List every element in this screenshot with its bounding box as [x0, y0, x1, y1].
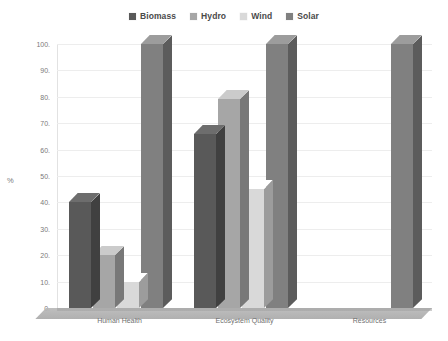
y-tick-10: 10. — [20, 278, 50, 285]
legend-item-biomass[interactable]: Biomass — [129, 11, 176, 21]
y-tick-40: 40. — [20, 199, 50, 206]
bar-body — [391, 44, 413, 308]
legend-item-hydro[interactable]: Hydro — [190, 11, 226, 21]
legend-label-hydro: Hydro — [201, 11, 226, 21]
chart-legend: BiomassHydroWindSolar — [0, 11, 448, 21]
bar-front-face — [141, 44, 163, 308]
legend-swatch-biomass — [129, 13, 136, 20]
y-tick-100: 100. — [20, 41, 50, 48]
bar-front-face — [69, 202, 91, 308]
x-axis-label-ecosystem-quality: Ecosystem Quality — [216, 317, 274, 324]
legend-swatch-wind — [240, 13, 247, 20]
legend-item-wind[interactable]: Wind — [240, 11, 272, 21]
legend-swatch-hydro — [190, 13, 197, 20]
y-tick-50: 50. — [20, 173, 50, 180]
bar-side-face — [264, 181, 273, 308]
bar-side-face — [91, 194, 100, 308]
legend-swatch-solar — [286, 13, 293, 20]
x-axis-label-human-health: Human Health — [97, 317, 142, 324]
legend-label-wind: Wind — [251, 11, 272, 21]
bar-body — [194, 134, 216, 308]
y-axis-title: % — [7, 176, 14, 185]
legend-item-solar[interactable]: Solar — [286, 11, 319, 21]
bar-front-face — [391, 44, 413, 308]
bar-side-face — [216, 125, 225, 308]
y-tick-80: 80. — [20, 93, 50, 100]
y-tick-90: 90. — [20, 67, 50, 74]
y-tick-20: 20. — [20, 252, 50, 259]
bar-side-face — [115, 247, 124, 308]
bar-side-face — [288, 35, 297, 308]
bar-body — [141, 44, 163, 308]
y-axis-tick-labels: 0.10.20.30.40.50.60.70.80.90.100. — [16, 44, 50, 308]
bar-front-face — [194, 134, 216, 308]
bar-body — [69, 202, 91, 308]
bar-group-human-health — [69, 44, 163, 308]
bar-group-resources — [319, 44, 413, 308]
y-tick-30: 30. — [20, 225, 50, 232]
legend-label-solar: Solar — [297, 11, 319, 21]
y-tick-60: 60. — [20, 146, 50, 153]
bar-chart: BiomassHydroWindSolar 0.10.20.30.40.50.6… — [0, 0, 448, 341]
bar-side-face — [413, 35, 422, 308]
chart-baseline — [57, 308, 432, 311]
plot-area — [57, 44, 432, 308]
y-tick-70: 70. — [20, 120, 50, 127]
bar-group-ecosystem-quality — [194, 44, 288, 308]
x-axis-label-resources: Resources — [353, 317, 386, 324]
bar-side-face — [163, 35, 172, 308]
legend-label-biomass: Biomass — [140, 11, 176, 21]
bar-side-face — [240, 91, 249, 308]
